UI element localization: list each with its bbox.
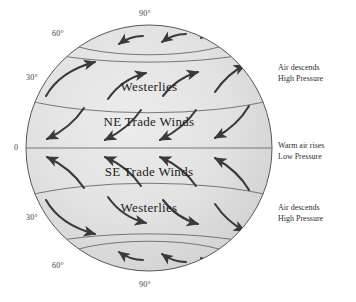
lat-label-90s: 90° [139,280,151,289]
band-label-westerlies-south: Westerlies [99,200,199,216]
equator-low-pressure-line1: Warm air rises [278,141,324,152]
equator-low-pressure-note: Warm air rises Low Pressure [278,141,324,162]
band-label-westerlies-north: Westerlies [99,79,199,95]
south-high-pressure-note: Air descends High Pressure [278,203,323,224]
equator-low-pressure-line2: Low Pressure [278,152,324,163]
south-high-pressure-line2: High Pressure [278,214,323,225]
lat-label-30s: 30° [26,213,38,222]
north-high-pressure-line2: High Pressure [278,74,323,85]
band-label-ne-trade-winds: NE Trade Winds [79,114,219,130]
north-high-pressure-note: Air descends High Pressure [278,63,323,84]
lat-label-30n: 30° [26,73,38,82]
band-label-se-trade-winds: SE Trade Winds [79,164,219,180]
circulation-diagram-page: 90° 60° 30° 0 30° 60° 90° Westerlies NE … [0,0,356,302]
lat-label-60s: 60° [52,261,64,270]
lat-label-equator: 0 [14,143,18,152]
north-high-pressure-line1: Air descends [278,63,323,74]
lat-label-60n: 60° [52,29,64,38]
south-high-pressure-line1: Air descends [278,203,323,214]
lat-label-90n: 90° [139,9,151,18]
